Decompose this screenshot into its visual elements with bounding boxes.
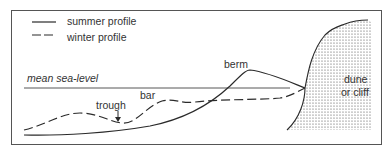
legend-winter-label: winter profile xyxy=(66,31,127,43)
trough-label: trough xyxy=(96,99,126,111)
beach-profile-diagram: summer profile winter profile mean sea-l… xyxy=(0,0,391,152)
berm-label: berm xyxy=(224,58,248,70)
sea-level-label: mean sea-level xyxy=(27,72,99,84)
trough-arrow-head xyxy=(115,117,121,122)
dune-label-line2: or cliff xyxy=(341,86,369,98)
winter-profile-line xyxy=(24,88,305,130)
legend-summer-label: summer profile xyxy=(67,15,137,27)
bar-label: bar xyxy=(140,89,156,101)
dune-label-line1: dune xyxy=(344,73,368,85)
